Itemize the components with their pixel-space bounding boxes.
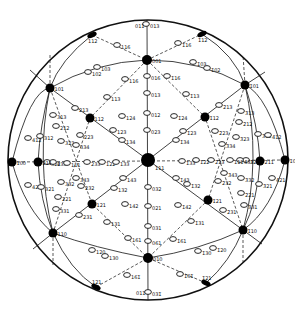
pole-marker — [53, 207, 60, 212]
minor-pole: 2̄13 — [216, 103, 233, 110]
pole-marker — [119, 138, 126, 143]
pole-marker — [72, 106, 79, 111]
pole-marker — [255, 132, 262, 137]
minor-pole: 3̄34 — [219, 142, 236, 149]
pole-marker — [94, 65, 101, 70]
pole-marker — [113, 160, 120, 165]
minor-pole: 161̄ — [124, 273, 141, 280]
pole-marker — [84, 160, 91, 165]
pole-dot — [256, 157, 265, 166]
minor-pole: 031̄ — [145, 290, 162, 297]
minor-pole: 323 — [58, 139, 75, 146]
pole-label: 3̄43 — [228, 172, 238, 178]
minor-pole: 013 — [144, 91, 161, 98]
pole-label: 1̄30 — [202, 250, 212, 256]
pole-label: 1̄16 — [182, 42, 192, 48]
pole-label: 1̄00 — [290, 158, 296, 164]
pole-label: 232 — [85, 185, 95, 191]
pole-marker — [227, 158, 234, 163]
pole-label: 134 — [126, 139, 136, 145]
minor-pole: 2̄12 — [236, 120, 253, 127]
pole-marker — [78, 184, 85, 189]
minor-pole: 1̄20 — [210, 246, 227, 253]
minor-pole: 021 — [145, 204, 162, 211]
pole-label: 212 — [60, 125, 70, 131]
minor-pole: 2̄31 — [220, 208, 237, 215]
pole-marker — [145, 204, 152, 209]
pole-marker — [73, 143, 80, 148]
pole-marker — [76, 213, 83, 218]
pole-marker — [215, 179, 222, 184]
minor-pole: 161 — [125, 236, 142, 243]
pole-label: 1̄32 — [191, 183, 201, 189]
pole-label: 2̄31 — [227, 209, 237, 215]
pole-label: 023 — [151, 129, 161, 135]
pole-marker — [233, 135, 240, 140]
pole-label: 1̄23 — [187, 130, 197, 136]
pole-label: 2̄21 — [245, 192, 255, 198]
minor-pole: 130 — [102, 254, 119, 261]
pole-label: 100 — [17, 160, 27, 166]
pole-label: 1̄12 — [210, 115, 220, 121]
major-pole: 110 — [49, 229, 68, 238]
pole-label: 124 — [126, 115, 136, 121]
pole-marker — [144, 128, 151, 133]
minor-pole: 321 — [38, 185, 55, 192]
pole-label: 142 — [129, 203, 139, 209]
pole-marker — [170, 237, 177, 242]
pole-label: 2̄11 — [265, 159, 275, 165]
pole-label: 061 — [152, 240, 162, 246]
minor-pole: 1̄02 — [204, 66, 221, 73]
minor-pole: 1̄31 — [188, 219, 205, 226]
minor-pole: 331 — [53, 207, 70, 214]
pole-marker — [183, 92, 190, 97]
pole-dot — [86, 114, 95, 123]
pole-label: 213 — [79, 107, 89, 113]
pole-label: 332 — [65, 181, 75, 187]
minor-pole: 116 — [114, 43, 131, 50]
minor-pole: 142 — [122, 202, 139, 209]
minor-pole: 124 — [119, 114, 136, 121]
pole-label: 331 — [60, 208, 70, 214]
major-pole: 001 — [142, 55, 162, 65]
minor-pole: 231 — [76, 213, 93, 220]
pole-marker — [25, 183, 32, 188]
minor-pole: 1̄34 — [173, 138, 190, 145]
minor-pole: 1̄61̄ — [177, 272, 194, 279]
pole-marker — [204, 66, 211, 71]
major-pole: 1̄00 — [281, 156, 296, 165]
rim-pole: 011 — [136, 290, 146, 296]
pole-label: 1̄42 — [182, 204, 192, 210]
major-pole: 211 — [34, 158, 53, 167]
major-pole: 112 — [86, 114, 105, 123]
minor-pole: 1̄42 — [175, 203, 192, 210]
pole-label: 1̄13 — [190, 93, 200, 99]
minor-pole: 233 — [84, 160, 101, 167]
pole-marker — [38, 185, 45, 190]
rim-pole: 011 — [135, 23, 145, 29]
rim-pole: 1̄12 — [196, 30, 207, 43]
minor-pole: 3̄13 — [238, 109, 255, 116]
pole-label: 011 — [135, 23, 145, 29]
pole-label: 211 — [43, 160, 53, 166]
minor-pole: 143 — [120, 176, 137, 183]
pole-marker — [175, 203, 182, 208]
pole-marker — [220, 208, 227, 213]
minor-pole: 332 — [58, 180, 75, 187]
pole-label: 133 — [120, 161, 130, 167]
minor-pole: 134 — [119, 138, 136, 145]
pole-marker — [124, 273, 131, 278]
pole-label: 3̄13 — [245, 110, 255, 116]
pole-label: 2̄23 — [219, 130, 229, 136]
pole-label: 132 — [118, 187, 128, 193]
pole-label: 012 — [151, 112, 161, 118]
pole-marker — [145, 239, 152, 244]
pole-marker — [256, 182, 263, 187]
pole-marker — [120, 176, 127, 181]
pole-marker — [122, 202, 129, 207]
pole-dot — [49, 229, 58, 238]
pole-dot — [239, 226, 248, 235]
pole-label: 1̄61 — [177, 238, 187, 244]
pole-marker — [104, 95, 111, 100]
pole-label: 121 — [92, 279, 102, 285]
